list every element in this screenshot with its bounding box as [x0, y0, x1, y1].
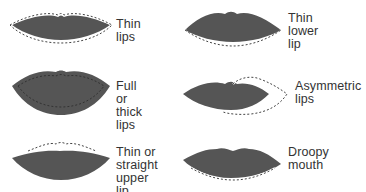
thin-straight-upper-lip-icon [10, 138, 112, 182]
full-thick-lips-icon [10, 68, 112, 116]
thin-lips-label-line-2: lips [116, 31, 141, 44]
droopy-mouth-icon [183, 142, 283, 184]
thin-lower-lip-icon [183, 6, 283, 48]
full-thick-lips-label-line-2: thick lips [116, 106, 142, 132]
full-thick-lips-label-line-1: Full or [116, 80, 142, 106]
droopy-mouth-label-line-2: mouth [288, 159, 329, 172]
thin-lips-icon [8, 8, 114, 46]
asymmetric-lips-label-line-2: lips [295, 93, 361, 106]
thin-straight-upper-lip-label-line-3: upper lip [116, 172, 158, 192]
asymmetric-lips-icon [183, 74, 289, 118]
thin-lower-lip-label-line-3: lip [288, 38, 318, 51]
